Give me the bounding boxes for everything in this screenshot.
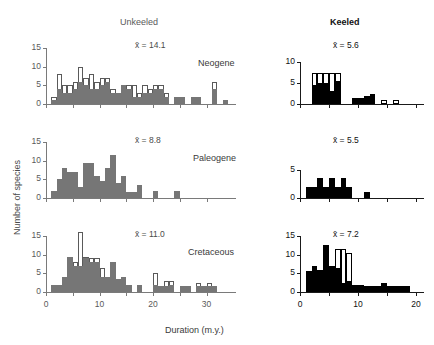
x-tick-mark [180, 293, 181, 296]
histogram-bar-filled [126, 285, 131, 292]
y-tick-label: 0 [24, 98, 41, 108]
figure-canvas: Unkeeled Keeled x̄ = 14.1 x̄ = 5.6 x̄ = … [0, 0, 434, 345]
x-axis-line [300, 292, 424, 293]
x-tick-label: 0 [290, 299, 310, 309]
mean-keeled-paleogene: x̄ = 5.5 [333, 135, 359, 145]
y-tick-label: 5 [24, 173, 41, 183]
histogram-bar-filled [346, 187, 352, 198]
x-tick-mark [126, 199, 127, 202]
mean-unkeeled-cretaceous: x̄ = 11.0 [135, 229, 165, 239]
x-tick-mark [387, 199, 388, 202]
y-tick-mark [297, 83, 300, 84]
y-tick-label: 5 [24, 267, 41, 277]
x-tick-mark [300, 293, 301, 296]
x-axis-title: Duration (m.y.) [165, 325, 224, 335]
mean-unkeeled-paleogene: x̄ = 8.8 [135, 135, 161, 145]
x-tick-mark [46, 293, 47, 296]
y-tick-label: 0 [278, 98, 295, 108]
histogram-bar-filled [153, 191, 158, 198]
y-tick-label: 5 [278, 267, 295, 277]
x-tick-mark [153, 105, 154, 108]
y-tick-mark [43, 273, 46, 274]
mean-keeled-cretaceous: x̄ = 7.2 [333, 229, 359, 239]
column-header-unkeeled: Unkeeled [120, 17, 158, 27]
y-tick-mark [297, 273, 300, 274]
x-tick-mark [180, 105, 181, 108]
x-tick-mark [207, 293, 208, 296]
x-tick-mark [153, 293, 154, 296]
y-axis-line [300, 62, 301, 104]
y-tick-mark [43, 142, 46, 143]
y-tick-label: 0 [278, 286, 295, 296]
y-tick-label: 0 [24, 192, 41, 202]
y-tick-mark [43, 179, 46, 180]
y-tick-label: 5 [278, 164, 295, 174]
y-tick-label: 5 [278, 77, 295, 87]
row-label-neogene: Neogene [198, 58, 235, 68]
x-tick-mark [207, 199, 208, 202]
y-axis-line [46, 142, 47, 198]
y-axis-line [300, 236, 301, 292]
histogram-bar-filled [370, 94, 376, 105]
x-tick-mark [180, 199, 181, 202]
x-tick-label: 20 [406, 299, 426, 309]
x-tick-mark [46, 105, 47, 108]
y-tick-mark [43, 236, 46, 237]
y-tick-mark [297, 236, 300, 237]
y-tick-label: 15 [24, 136, 41, 146]
x-tick-mark [100, 105, 101, 108]
x-tick-mark [416, 199, 417, 202]
y-axis-line [46, 236, 47, 292]
x-tick-mark [329, 105, 330, 108]
x-tick-label: 10 [90, 299, 110, 309]
y-tick-label: 15 [24, 230, 41, 240]
x-tick-mark [300, 199, 301, 202]
y-tick-label: 10 [24, 61, 41, 71]
y-axis-line [46, 48, 47, 104]
x-axis-line [300, 104, 424, 105]
histogram-bar-filled [137, 285, 142, 292]
x-tick-mark [73, 199, 74, 202]
y-tick-mark [43, 255, 46, 256]
x-tick-mark [207, 105, 208, 108]
x-tick-mark [126, 105, 127, 108]
y-tick-label: 0 [24, 286, 41, 296]
x-tick-mark [416, 105, 417, 108]
x-tick-mark [100, 199, 101, 202]
y-tick-mark [297, 62, 300, 63]
histogram-bar-filled [212, 89, 217, 104]
y-axis-line [300, 170, 301, 198]
x-tick-mark [126, 293, 127, 296]
x-tick-mark [46, 199, 47, 202]
histogram-bar-filled [174, 191, 179, 198]
histogram-bar-filled [180, 97, 185, 104]
y-tick-label: 15 [24, 42, 41, 52]
x-tick-mark [329, 199, 330, 202]
x-tick-mark [153, 199, 154, 202]
x-tick-mark [73, 293, 74, 296]
mean-keeled-neogene: x̄ = 5.6 [333, 40, 359, 50]
y-tick-label: 10 [278, 249, 295, 259]
x-tick-mark [358, 105, 359, 108]
y-tick-mark [43, 85, 46, 86]
mean-unkeeled-neogene: x̄ = 14.1 [135, 40, 165, 50]
x-tick-mark [100, 293, 101, 296]
y-tick-label: 10 [24, 155, 41, 165]
x-tick-label: 10 [348, 299, 368, 309]
y-tick-mark [297, 255, 300, 256]
y-tick-mark [43, 161, 46, 162]
x-tick-mark [416, 293, 417, 296]
histogram-bar-filled [196, 97, 201, 104]
x-tick-mark [387, 105, 388, 108]
histogram-bar-filled [169, 285, 174, 292]
y-tick-label: 15 [278, 230, 295, 240]
x-tick-label: 30 [197, 299, 217, 309]
y-tick-mark [43, 48, 46, 49]
x-tick-mark [73, 105, 74, 108]
x-tick-label: 0 [36, 299, 56, 309]
histogram-bar-filled [335, 81, 341, 104]
x-tick-mark [300, 105, 301, 108]
y-tick-label: 5 [24, 79, 41, 89]
y-tick-mark [43, 67, 46, 68]
x-tick-mark [358, 293, 359, 296]
